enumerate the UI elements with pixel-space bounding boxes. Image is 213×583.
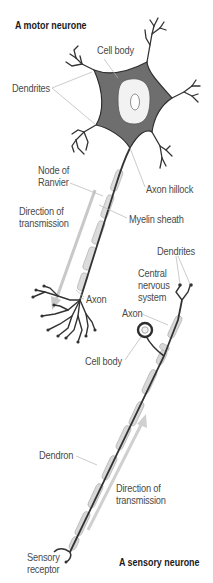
motor-direction-label-line2: transmission [19, 217, 69, 229]
motor-neurone-title: A motor neurone [15, 19, 87, 31]
sensory-dendrites [176, 286, 190, 300]
sensory-dendrites-label: Dendrites [157, 245, 195, 257]
sensory-axon-label: Axon [122, 307, 142, 319]
sensory-neurone-title: A sensory neurone [119, 556, 200, 568]
sensory-nucleus [142, 327, 148, 333]
sensory-direction-label-line1: Direction of [116, 482, 161, 494]
cns-label-line1: Central [138, 267, 167, 279]
sensory-direction-label-line2: transmission [116, 494, 166, 506]
sensory-neurone [54, 256, 193, 564]
motor-axon-label: Axon [86, 293, 106, 305]
sensory-direction-arrow [88, 414, 147, 530]
dendron-label: Dendron [39, 449, 73, 461]
node-of-ranvier-label-line1: Node of [38, 164, 69, 176]
sensory-cell-body-label: Cell body [85, 355, 122, 367]
motor-dendrites-label: Dendrites [12, 82, 50, 94]
motor-direction-label-line1: Direction of [19, 205, 64, 217]
node-of-ranvier-label-line2: Ranvier [38, 176, 69, 188]
sensory-receptor-label-line1: Sensory [27, 551, 60, 563]
motor-myelin-sheath [77, 169, 124, 291]
cns-label-line3: system [138, 291, 166, 303]
sensory-receptor-label-line2: receptor [27, 563, 59, 575]
motor-cell-body-label: Cell body [97, 44, 134, 56]
cns-label-line2: nervous [138, 279, 170, 291]
motor-nucleolus [131, 94, 140, 110]
axon-hillock-label: Axon hillock [146, 183, 193, 195]
myelin-sheath-label: Myelin sheath [129, 213, 184, 225]
